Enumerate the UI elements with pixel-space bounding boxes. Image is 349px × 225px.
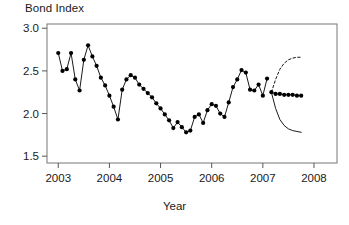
data-point — [214, 104, 218, 108]
data-point — [60, 69, 64, 73]
data-point — [124, 77, 128, 81]
data-point — [116, 117, 120, 121]
data-point — [244, 71, 248, 75]
y-tick-label: 1.5 — [23, 150, 39, 162]
y-tick-label: 3.0 — [23, 22, 39, 34]
series-line — [58, 45, 267, 132]
data-point — [201, 121, 205, 125]
data-point — [163, 112, 167, 116]
data-point — [129, 73, 133, 77]
data-point — [73, 77, 77, 81]
data-point — [282, 93, 286, 97]
data-point — [103, 83, 107, 87]
data-point — [295, 94, 299, 98]
data-point — [265, 76, 269, 80]
data-point — [286, 93, 290, 97]
data-point — [167, 118, 171, 122]
data-point — [99, 76, 103, 80]
x-tick-label: 2007 — [250, 172, 276, 184]
data-point — [193, 115, 197, 119]
data-point — [146, 91, 150, 95]
data-point — [112, 105, 116, 109]
x-tick-label: 2004 — [97, 172, 123, 184]
data-point — [256, 82, 260, 86]
data-point — [197, 112, 201, 116]
data-point — [137, 82, 141, 86]
data-point — [95, 64, 99, 68]
x-tick-label: 2006 — [199, 172, 225, 184]
data-point — [184, 130, 188, 134]
plot-area: 1.52.02.53.0200320042005200620072008 — [0, 0, 349, 225]
data-point — [120, 88, 124, 92]
data-point — [77, 88, 81, 92]
data-point — [274, 92, 278, 96]
data-point — [222, 115, 226, 119]
series-line — [271, 57, 301, 92]
data-point — [82, 58, 86, 62]
y-tick-label: 2.0 — [23, 108, 39, 120]
data-point — [65, 67, 69, 71]
data-point — [205, 108, 209, 112]
x-tick-label: 2003 — [45, 172, 71, 184]
series-line — [271, 92, 301, 132]
data-point — [171, 126, 175, 130]
data-point — [235, 77, 239, 81]
data-point — [210, 102, 214, 106]
data-point — [218, 111, 222, 115]
data-point — [248, 88, 252, 92]
data-point — [261, 94, 265, 98]
data-point — [86, 43, 90, 47]
data-point — [227, 100, 231, 104]
data-point — [291, 93, 295, 97]
data-point — [158, 106, 162, 110]
data-point — [231, 85, 235, 89]
data-point — [239, 68, 243, 72]
data-point — [175, 120, 179, 124]
data-point — [133, 76, 137, 80]
data-point — [69, 51, 73, 55]
x-tick-label: 2008 — [301, 172, 327, 184]
data-point — [299, 94, 303, 98]
data-point — [252, 88, 256, 92]
data-point — [150, 95, 154, 99]
data-point — [154, 101, 158, 105]
x-tick-label: 2005 — [148, 172, 174, 184]
data-point — [180, 125, 184, 129]
data-point — [141, 87, 145, 91]
data-layer — [56, 43, 303, 134]
tick-label-layer: 1.52.02.53.0200320042005200620072008 — [23, 22, 327, 184]
y-tick-label: 2.5 — [23, 65, 39, 77]
data-point — [107, 94, 111, 98]
data-point — [56, 51, 60, 55]
bond-index-figure: Bond Index 1.52.02.53.020032004200520062… — [0, 0, 349, 225]
data-point — [90, 54, 94, 58]
data-point — [188, 129, 192, 133]
x-axis-label: Year — [0, 200, 349, 212]
data-point — [278, 92, 282, 96]
